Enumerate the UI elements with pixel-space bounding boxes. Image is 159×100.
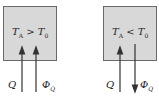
label-q-left: Q <box>8 79 16 90</box>
arrowhead-up-icon <box>118 47 123 54</box>
arrows-layer <box>0 0 159 100</box>
label-phi-right: ΦQ <box>140 79 153 92</box>
arrowhead-down-icon <box>133 85 138 92</box>
label-q-right: Q <box>106 79 114 90</box>
arrowhead-up-icon <box>20 47 25 54</box>
arrowhead-up-icon <box>34 47 39 54</box>
label-phi-left: ΦQ <box>42 79 55 92</box>
